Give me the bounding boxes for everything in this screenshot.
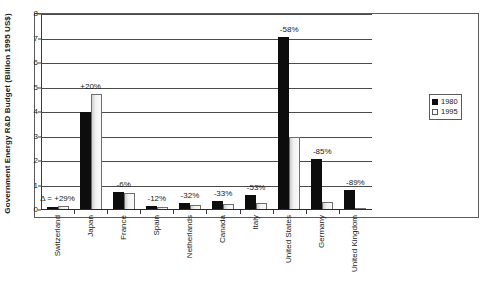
- x-axis-category-label: Switzerland: [54, 215, 62, 256]
- x-axis-label-cell: United Kingdom: [339, 213, 372, 284]
- x-axis-label-cell: Italy: [240, 213, 273, 284]
- bar-group: -12%: [140, 14, 173, 210]
- y-axis-title: Government Energy R&D Budget (Billion 19…: [0, 13, 14, 213]
- x-axis-category-label: Netherlands: [186, 215, 194, 258]
- x-axis-category-label: France: [120, 215, 128, 240]
- delta-annotation: -33%: [214, 190, 233, 198]
- x-axis-category-label: Italy: [252, 215, 260, 230]
- x-axis-category-labels: SwitzerlandJapanFranceSpainNetherlandsCa…: [41, 213, 372, 284]
- x-axis-category-label: Germany: [318, 215, 326, 248]
- legend-label: 1995: [441, 108, 458, 116]
- bar-group: -58%: [273, 14, 306, 210]
- x-axis-category-label: United States: [285, 215, 293, 263]
- legend-entry[interactable]: 1980: [432, 97, 458, 107]
- bar-group: -6%: [107, 14, 140, 210]
- x-axis-label-cell: Netherlands: [173, 213, 206, 284]
- bar-group: -53%: [240, 14, 273, 210]
- bar-groups: Δ = +29%+20%-6%-12%-32%-33%-53%-58%-85%-…: [41, 14, 372, 210]
- plot-area: 012345678 Δ = +29%+20%-6%-12%-32%-33%-53…: [41, 14, 372, 210]
- chart-legend: 19801995: [429, 94, 462, 120]
- bar-group: -85%: [306, 14, 339, 210]
- legend-entry[interactable]: 1995: [432, 107, 458, 117]
- bar-1995[interactable]: [91, 94, 102, 210]
- x-axis-category-label: United Kingdom: [351, 215, 359, 272]
- chart-figure: Government Energy R&D Budget (Billion 19…: [0, 0, 487, 284]
- bar-group: -32%: [173, 14, 206, 210]
- delta-annotation: -32%: [181, 192, 200, 200]
- delta-annotation: +20%: [80, 83, 101, 91]
- bar-1980[interactable]: [245, 195, 256, 210]
- bar-1980[interactable]: [311, 159, 322, 210]
- delta-annotation: -85%: [313, 148, 332, 156]
- delta-annotation: -58%: [280, 26, 299, 34]
- x-axis-category-label: Canada: [219, 215, 227, 243]
- bar-1980[interactable]: [113, 192, 124, 210]
- legend-label: 1980: [441, 98, 458, 106]
- x-axis-label-cell: Spain: [140, 213, 173, 284]
- delta-annotation: -12%: [147, 195, 166, 203]
- bar-1995[interactable]: [124, 193, 135, 210]
- x-axis-line: [41, 209, 372, 210]
- legend-swatch-1995: [432, 109, 438, 115]
- bar-group: -89%: [339, 14, 372, 210]
- delta-annotation: -6%: [117, 181, 131, 189]
- delta-annotation: -53%: [247, 184, 266, 192]
- x-axis-label-cell: Japan: [74, 213, 107, 284]
- delta-annotation: Δ = +29%: [40, 195, 75, 203]
- bar-1980[interactable]: [80, 112, 91, 210]
- x-axis-category-label: Spain: [153, 215, 161, 235]
- bar-group: Δ = +29%: [41, 14, 74, 210]
- x-axis-label-cell: Canada: [206, 213, 239, 284]
- delta-annotation: -89%: [346, 179, 365, 187]
- bar-group: +20%: [74, 14, 107, 210]
- x-axis-label-cell: United States: [273, 213, 306, 284]
- y-axis-title-text: Government Energy R&D Budget (Billion 19…: [3, 13, 12, 213]
- bar-1980[interactable]: [278, 37, 289, 210]
- x-axis-category-label: Japan: [87, 215, 95, 237]
- bar-1995[interactable]: [289, 137, 300, 210]
- bar-1980[interactable]: [344, 190, 355, 210]
- x-axis-label-cell: France: [107, 213, 140, 284]
- bar-group: -33%: [206, 14, 239, 210]
- x-axis-label-cell: Germany: [306, 213, 339, 284]
- legend-swatch-1980: [432, 99, 438, 105]
- x-axis-label-cell: Switzerland: [41, 213, 74, 284]
